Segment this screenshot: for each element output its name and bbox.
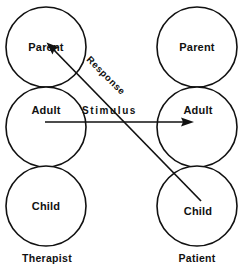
transactional-analysis-diagram: Parent Adult Child Therapist Parent Adul…	[0, 0, 239, 272]
label-therapist-parent: Parent	[28, 41, 64, 53]
label-therapist-adult: Adult	[31, 104, 60, 116]
person-label-patient: Patient	[178, 252, 215, 264]
column-patient: Parent Adult Child Patient	[157, 7, 237, 264]
label-patient-parent: Parent	[179, 41, 215, 53]
person-label-therapist: Therapist	[22, 252, 72, 264]
diagram-canvas: Parent Adult Child Therapist Parent Adul…	[0, 0, 239, 272]
vector-label-response: Response	[85, 54, 128, 97]
column-therapist: Parent Adult Child Therapist	[6, 7, 86, 264]
label-therapist-child: Child	[32, 200, 61, 212]
label-patient-child: Child	[184, 205, 213, 217]
label-patient-adult: Adult	[183, 104, 212, 116]
circle-patient-adult[interactable]	[157, 87, 237, 167]
circle-therapist-adult[interactable]	[6, 87, 86, 167]
